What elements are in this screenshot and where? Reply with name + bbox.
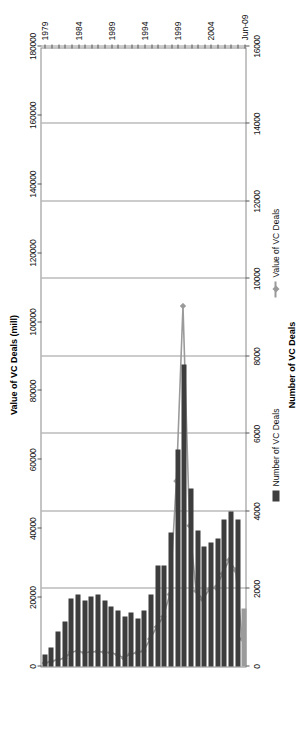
bar[interactable] <box>88 596 93 666</box>
chart-category-row <box>194 48 201 666</box>
category-axis-tick <box>197 44 198 48</box>
bar[interactable] <box>235 519 240 666</box>
bar[interactable] <box>128 612 133 666</box>
category-axis-tick <box>177 44 178 48</box>
bar[interactable] <box>122 616 127 666</box>
bar[interactable] <box>195 530 200 666</box>
category-axis-tick <box>51 44 52 48</box>
category-axis-tick <box>111 44 112 48</box>
chart-category-row <box>147 48 154 666</box>
category-axis-tick <box>104 44 105 48</box>
bar[interactable] <box>148 594 153 666</box>
top-axis-tick <box>37 665 41 666</box>
bar[interactable] <box>75 594 80 666</box>
category-axis-tick <box>237 44 238 48</box>
chart-category-row <box>88 48 95 666</box>
category-axis-tick <box>71 44 72 48</box>
bar[interactable] <box>102 600 107 666</box>
category-axis-tick <box>64 44 65 48</box>
bar[interactable] <box>135 618 140 666</box>
top-axis-title: Value of VC Deals (mill) <box>8 314 18 414</box>
top-axis-tick-label: 40000 <box>27 517 37 540</box>
bar[interactable] <box>55 631 60 666</box>
bottom-axis-tick-label: 14000 <box>251 112 261 135</box>
chart-category-row <box>94 48 101 666</box>
chart-category-row <box>181 48 188 666</box>
bar[interactable] <box>155 565 160 666</box>
category-axis-tick <box>210 44 211 48</box>
category-axis-label: 1999 <box>172 21 182 40</box>
bar[interactable] <box>228 511 233 666</box>
category-axis-tick <box>84 44 85 48</box>
top-axis-tick-label: 100000 <box>27 308 37 335</box>
bar[interactable] <box>181 364 186 666</box>
chart-category-row <box>114 48 121 666</box>
chart-category-row: 1999 <box>174 48 181 666</box>
category-axis-tick <box>58 44 59 48</box>
legend-entry-number[interactable]: Number of VC Deals <box>270 408 280 501</box>
category-axis-tick <box>224 44 225 48</box>
vc-deals-combo-chart: Value of VC Deals (mill) Number of VC De… <box>0 0 302 729</box>
category-axis-tick <box>184 44 185 48</box>
category-axis-tick <box>157 44 158 48</box>
plot-area: 0200040006000800010000120001400016000020… <box>40 47 246 667</box>
chart-category-row <box>81 48 88 666</box>
category-axis-tick <box>230 44 231 48</box>
legend-entry-value[interactable]: Value of VC Deals <box>270 208 280 297</box>
line-marker-icon <box>271 281 279 297</box>
top-axis-tick <box>37 458 41 459</box>
bottom-axis-tick-label: 10000 <box>251 267 261 290</box>
bar[interactable] <box>168 532 173 666</box>
chart-category-row <box>68 48 75 666</box>
category-axis-label: 2004 <box>205 21 215 40</box>
top-axis-tick <box>37 114 41 115</box>
bar[interactable] <box>42 654 47 666</box>
bottom-axis-tick-label: 16000 <box>251 35 261 58</box>
bar[interactable] <box>108 606 113 666</box>
chart-category-row: 1979 <box>41 48 48 666</box>
category-axis-tick <box>78 44 79 48</box>
chart-category-row <box>227 48 234 666</box>
category-axis-label: 1984 <box>73 21 83 40</box>
bar[interactable] <box>241 608 246 666</box>
bar[interactable] <box>221 519 226 666</box>
bar[interactable] <box>201 546 206 666</box>
bar[interactable] <box>48 647 53 666</box>
chart-category-row <box>214 48 221 666</box>
category-axis-label: 1994 <box>139 21 149 40</box>
top-axis-tick-label: 180000 <box>27 32 37 59</box>
category-axis-tick <box>244 44 245 48</box>
bar[interactable] <box>115 610 120 666</box>
bottom-axis-tick-label: 6000 <box>251 424 261 442</box>
chart-category-row <box>187 48 194 666</box>
chart-category-row <box>154 48 161 666</box>
bar[interactable] <box>82 600 87 666</box>
bottom-axis-tick-label: 12000 <box>251 190 261 213</box>
bar[interactable] <box>95 594 100 666</box>
category-axis-tick <box>171 44 172 48</box>
category-axis-tick <box>117 44 118 48</box>
chart-category-row: 1994 <box>141 48 148 666</box>
bar[interactable] <box>68 598 73 666</box>
top-axis-tick <box>37 45 41 46</box>
bar[interactable] <box>141 610 146 666</box>
bar[interactable] <box>175 449 180 666</box>
chart-category-row <box>121 48 128 666</box>
top-axis-tick <box>37 389 41 390</box>
chart-category-row: 1984 <box>74 48 81 666</box>
bar[interactable] <box>215 538 220 666</box>
category-axis-tick <box>124 44 125 48</box>
bottom-axis-tick-label: 2000 <box>251 579 261 597</box>
top-axis-tick <box>37 596 41 597</box>
bar[interactable] <box>161 565 166 666</box>
bottom-axis-tick-label: 8000 <box>251 347 261 365</box>
bottom-axis-title: Number of VC Deals <box>286 321 296 408</box>
top-axis-tick-label: 160000 <box>27 101 37 128</box>
chart-category-row <box>167 48 174 666</box>
bar[interactable] <box>188 488 193 666</box>
bar[interactable] <box>62 621 67 666</box>
top-axis-tick-label: 20000 <box>27 586 37 609</box>
category-axis-tick <box>137 44 138 48</box>
top-axis-tick-label: 120000 <box>27 239 37 266</box>
bar[interactable] <box>208 542 213 666</box>
